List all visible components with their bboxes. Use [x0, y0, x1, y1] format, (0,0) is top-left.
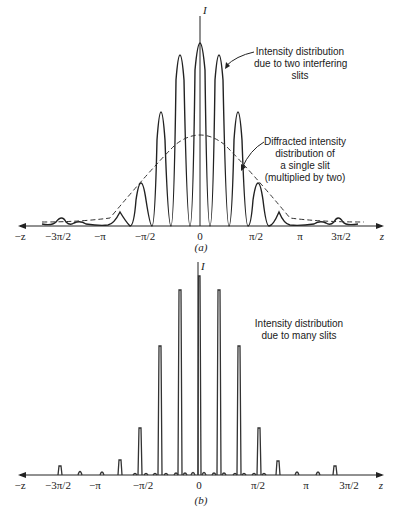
tick-neg-pi-a: −π	[94, 230, 106, 242]
caption-a: (a)	[195, 241, 208, 253]
x-axis-right-arrow-icon	[376, 223, 384, 229]
tick-pi2-a: π/2	[249, 230, 263, 242]
y-axis-label-a: I	[203, 4, 207, 16]
annotation-two-slit-line2: due to two interfering	[254, 58, 346, 70]
tick-neg-3pi2-b: −3π/2	[45, 479, 71, 491]
many-slit-peaks	[58, 276, 337, 475]
annotation-single-slit-line2: distribution of	[262, 148, 348, 160]
annotation-single-slit: Diffracted intensity distribution of a s…	[262, 136, 348, 184]
annotation-two-slit-line3: slits	[254, 70, 346, 82]
tick-neg-3pi2-a: −3π/2	[45, 230, 71, 242]
leader-two-slit	[226, 52, 254, 66]
tick-3pi2-a: 3π/2	[331, 230, 351, 242]
x-axis-left-arrow-icon	[18, 223, 26, 229]
tick-pi-a: π	[297, 230, 303, 242]
tick-neg-pi2-a: −π/2	[135, 230, 155, 242]
annotation-many-slits-line1: Intensity distribution	[254, 318, 344, 330]
tick-pi-b: π	[303, 479, 309, 491]
annotation-single-slit-line4: (multiplied by two)	[262, 172, 348, 184]
tick-z-b: z	[379, 479, 383, 491]
annotation-single-slit-line1: Diffracted intensity	[262, 136, 348, 148]
x-axis-b-left-arrow-icon	[18, 472, 26, 478]
tick-pi2-b: π/2	[251, 479, 265, 491]
y-axis-label-b: I	[201, 260, 205, 272]
caption-b: (b)	[195, 494, 208, 506]
annotation-two-slit: Intensity distribution due to two interf…	[254, 46, 346, 82]
annotation-many-slits: Intensity distribution due to many slits	[254, 318, 344, 342]
tick-neg-pi-b: −π	[89, 479, 101, 491]
tick-neg-z-b: −z	[14, 479, 25, 491]
panel-a-plot	[0, 0, 401, 250]
annotation-two-slit-line1: Intensity distribution	[254, 46, 346, 58]
tick-neg-pi2-b: −π/2	[133, 479, 153, 491]
x-axis-b-right-arrow-icon	[376, 472, 384, 478]
tick-zero-b: 0	[196, 479, 202, 491]
tick-neg-z-a: −z	[14, 230, 25, 242]
tick-z-a: z	[380, 230, 384, 242]
annotation-single-slit-line3: a single slit	[262, 160, 348, 172]
tick-3pi2-b: 3π/2	[339, 479, 359, 491]
leader-single-slit	[242, 142, 264, 168]
annotation-many-slits-line2: due to many slits	[254, 330, 344, 342]
